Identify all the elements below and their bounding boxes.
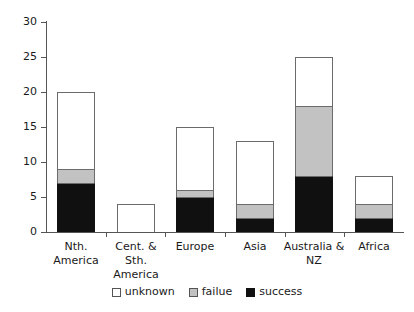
x-label-line: Africa xyxy=(328,240,414,254)
legend-swatch-success-icon xyxy=(246,288,255,297)
x-label-line: America xyxy=(90,268,182,282)
legend-swatch-failue-icon xyxy=(189,288,198,297)
bar-segment-failue xyxy=(295,106,333,176)
bar-segment-success xyxy=(295,176,333,232)
legend-item-success: success xyxy=(246,286,302,298)
x-label-line: Sth. xyxy=(90,254,182,268)
y-tick-0 xyxy=(41,232,46,233)
y-tick-20 xyxy=(41,92,46,93)
bar-nth-america xyxy=(57,92,95,232)
y-tick-label-5: 5 xyxy=(7,191,37,202)
bar-africa xyxy=(355,176,393,232)
bar-australia-nz xyxy=(295,57,333,232)
bar-segment-failue xyxy=(355,204,393,218)
bar-segment-unknown xyxy=(57,92,95,169)
y-tick-30 xyxy=(41,22,46,23)
x-tick-2 xyxy=(165,232,166,237)
legend-label: failue xyxy=(202,286,232,298)
bar-segment-success xyxy=(236,218,274,232)
legend-item-unknown: unknown xyxy=(112,286,175,298)
bar-europe xyxy=(176,127,214,232)
bar-segment-success xyxy=(176,197,214,232)
y-tick-label-20: 20 xyxy=(7,86,37,97)
legend-item-failue: failue xyxy=(189,286,232,298)
bar-segment-failue xyxy=(176,190,214,197)
bar-segment-failue xyxy=(236,204,274,218)
x-label-line: NZ xyxy=(268,254,360,268)
x-tick-3 xyxy=(225,232,226,237)
bar-segment-unknown xyxy=(295,57,333,106)
x-tick-1 xyxy=(106,232,107,237)
y-tick-label-15: 15 xyxy=(7,121,37,132)
y-tick-label-30: 30 xyxy=(7,16,37,27)
bar-segment-unknown xyxy=(355,176,393,204)
legend-label: success xyxy=(259,286,302,298)
x-tick-5 xyxy=(344,232,345,237)
legend-swatch-unknown-icon xyxy=(112,288,121,297)
bar-segment-unknown xyxy=(176,127,214,190)
bar-asia xyxy=(236,141,274,232)
stacked-bar-chart: 051015202530 Nth.AmericaCent. &Sth.Ameri… xyxy=(0,0,414,312)
x-label-africa: Africa xyxy=(328,240,414,254)
bar-segment-unknown xyxy=(236,141,274,204)
y-tick-5 xyxy=(41,197,46,198)
y-tick-label-10: 10 xyxy=(7,156,37,167)
y-tick-label-0: 0 xyxy=(7,226,37,237)
bar-segment-unknown xyxy=(117,204,155,232)
y-tick-label-25: 25 xyxy=(7,51,37,62)
bar-cent-sth-america xyxy=(117,204,155,232)
x-tick-4 xyxy=(285,232,286,237)
bar-segment-success xyxy=(57,183,95,232)
bar-segment-failue xyxy=(57,169,95,183)
y-tick-15 xyxy=(41,127,46,128)
y-tick-25 xyxy=(41,57,46,58)
y-tick-10 xyxy=(41,162,46,163)
bar-segment-success xyxy=(355,218,393,232)
y-axis-line xyxy=(46,21,47,233)
legend-label: unknown xyxy=(125,286,175,298)
chart-legend: unknownfailuesuccess xyxy=(0,286,414,298)
